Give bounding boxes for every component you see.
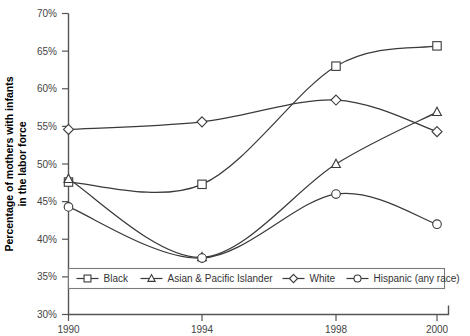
series-hispanic-any-race: [64, 190, 441, 263]
circle-marker: [198, 254, 207, 263]
x-tick-label: 1994: [191, 324, 214, 335]
y-tick-label: 60%: [37, 83, 57, 94]
chart-legend[interactable]: BlackAsian & Pacific IslanderWhiteHispan…: [69, 269, 460, 289]
legend-label: Hispanic (any race): [374, 273, 460, 284]
diamond-marker: [331, 95, 341, 105]
series-asian-pacific-islander: [64, 107, 441, 260]
y-tick-label: 50%: [37, 159, 57, 170]
x-tick-label: 1990: [57, 324, 80, 335]
y-tick-label: 30%: [37, 309, 57, 320]
chart-container: Percentage of mothers with infants in th…: [0, 0, 470, 336]
series-white: [64, 95, 443, 137]
legend-label: White: [310, 273, 336, 284]
series-black: [64, 42, 441, 193]
circle-marker: [354, 275, 361, 282]
y-axis-ticks: 30%35%40%45%50%55%60%65%70%: [37, 8, 69, 320]
y-tick-label: 40%: [37, 234, 57, 245]
y-tick-label: 55%: [37, 121, 57, 132]
y-axis-title: Percentage of mothers with infants in th…: [3, 76, 28, 251]
y-tick-label: 65%: [37, 46, 57, 57]
series-line: [69, 46, 438, 193]
series-layer: [64, 42, 443, 263]
circle-marker: [332, 190, 341, 199]
x-tick-label: 2000: [426, 324, 449, 335]
square-marker: [332, 62, 340, 70]
y-tick-label: 35%: [37, 271, 57, 282]
series-line: [69, 100, 438, 132]
line-chart: Percentage of mothers with infants in th…: [0, 0, 470, 336]
square-marker: [198, 180, 206, 188]
triangle-marker: [433, 107, 442, 115]
legend-label: Black: [104, 273, 129, 284]
square-marker: [433, 42, 441, 50]
triangle-marker: [332, 159, 341, 167]
circle-marker: [433, 220, 442, 229]
circle-marker: [64, 203, 73, 212]
y-axis-title-line2: in the labor force: [16, 121, 28, 206]
diamond-marker: [197, 117, 207, 127]
series-line: [69, 112, 438, 257]
legend-label: Asian & Pacific Islander: [168, 273, 274, 284]
x-tick-label: 1998: [325, 324, 348, 335]
y-axis-title-line1: Percentage of mothers with infants: [3, 76, 15, 251]
x-axis-ticks: 1990199419982000: [57, 315, 448, 336]
y-tick-label: 45%: [37, 196, 57, 207]
series-line: [69, 193, 438, 258]
diamond-marker: [432, 127, 442, 137]
y-tick-label: 70%: [37, 8, 57, 19]
square-marker: [84, 275, 91, 282]
